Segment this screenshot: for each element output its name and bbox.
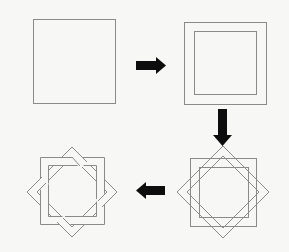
step-1-square bbox=[34, 20, 116, 104]
step-4-interlaced-star bbox=[27, 147, 117, 237]
diagram-canvas bbox=[0, 0, 289, 252]
arrow-down-icon bbox=[213, 109, 232, 146]
arrow-left-icon bbox=[136, 182, 165, 199]
step-3-overlapping-bands bbox=[177, 146, 269, 238]
arrow-right-icon bbox=[136, 57, 166, 74]
step-2-square-band bbox=[185, 23, 267, 105]
